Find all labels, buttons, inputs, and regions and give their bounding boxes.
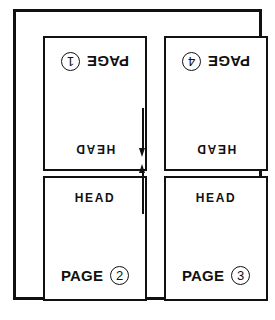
page-label-bottom-left: PAGE 2	[45, 266, 145, 285]
head-label-bottom-left: HEAD	[45, 191, 145, 205]
head-label-top-left: HEAD	[45, 142, 145, 156]
head-label-top-right: HEAD	[166, 142, 266, 156]
page-label-text: PAGE	[182, 267, 224, 284]
circled-number-4: 4	[182, 52, 201, 71]
page-label-bottom-right: PAGE 3	[166, 266, 266, 285]
page-panel-bottom-left: HEAD PAGE 2	[43, 176, 147, 301]
imposition-diagram: PAGE 1 HEAD PAGE 4 HEAD HEAD PAGE	[0, 0, 275, 320]
page-label-top-right: PAGE 4	[166, 52, 266, 71]
arrow-down-head	[139, 148, 145, 157]
circled-number-1: 1	[61, 52, 80, 71]
page-label-text: PAGE	[61, 267, 103, 284]
page-panel-top-left: PAGE 1 HEAD	[43, 36, 147, 171]
page-label-top-left: PAGE 1	[45, 52, 145, 71]
arrow-up-icon	[137, 164, 149, 214]
arrow-down-icon	[137, 108, 149, 158]
page-panel-bottom-right-content: HEAD PAGE 3	[166, 178, 266, 299]
arrow-up-shaft	[142, 172, 144, 214]
page-label-text: PAGE	[208, 53, 250, 70]
circled-number-2: 2	[110, 266, 129, 285]
page-panel-bottom-right: HEAD PAGE 3	[164, 176, 268, 301]
page-panel-top-left-content: PAGE 1 HEAD	[45, 38, 145, 169]
page-panel-top-right: PAGE 4 HEAD	[164, 36, 268, 171]
arrow-down-shaft	[142, 108, 144, 150]
circled-number-3: 3	[231, 266, 250, 285]
page-panel-bottom-left-content: HEAD PAGE 2	[45, 178, 145, 299]
arrow-up-head	[139, 164, 145, 173]
head-label-bottom-right: HEAD	[166, 191, 266, 205]
page-label-text: PAGE	[87, 53, 129, 70]
page-panel-top-right-content: PAGE 4 HEAD	[166, 38, 266, 169]
